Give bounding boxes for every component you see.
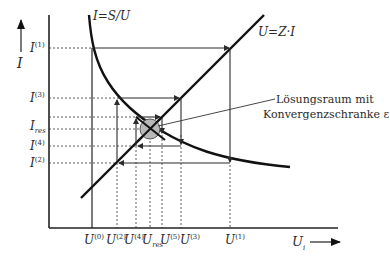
y-tick-I1: I(1) [30, 42, 45, 54]
x-tick-Ui5: U(5) [160, 234, 180, 246]
x-tick-Ui3: U(3) [180, 234, 200, 246]
x-tick-U0: U(0) [84, 234, 104, 246]
y-axis-label: I [17, 56, 23, 70]
line-label: U=Z·I [258, 26, 295, 38]
y-tick-I4: I(4) [30, 140, 45, 152]
iteration-diagram [0, 0, 390, 263]
annotation-text: Lösungsraum mit Konvergenzschranke ε [276, 92, 389, 122]
impedance-line [81, 15, 264, 198]
y-tick-I2: I(2) [30, 157, 45, 169]
y-tick-I3: I(3) [30, 92, 45, 104]
y-tick-Ires: Ires [30, 120, 46, 135]
x-axis-label: Ui [292, 235, 305, 252]
hyperbola-label: I=S/U [93, 10, 130, 22]
iteration-path [92, 48, 230, 163]
x-tick-Ui1: U(1) [225, 234, 245, 246]
